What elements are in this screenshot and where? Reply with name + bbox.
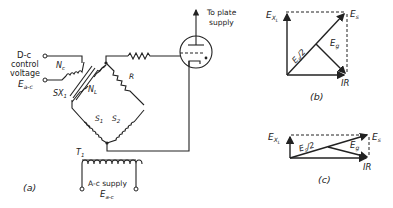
- caption-a: (a): [23, 182, 36, 193]
- c-eg-vector: [328, 147, 367, 157]
- ac-terminal-left: [80, 187, 84, 191]
- tube-gas-dot: [205, 57, 208, 60]
- phasor-diagram-b: EXL Es Es/2 Eg IR (b): [266, 9, 359, 102]
- plate-supply-label-line1: To plate: [206, 8, 237, 17]
- s1-winding-coil: [84, 122, 107, 143]
- dc-control-label-line1: D-c: [17, 50, 32, 60]
- bridge-resistor-r: [106, 63, 144, 105]
- ac-supply-symbol: Ea-c: [100, 189, 114, 200]
- b-eg-label: Eg: [330, 38, 339, 50]
- c-es-half-label: Es/2: [298, 141, 316, 155]
- nc-winding-coil: [66, 62, 84, 76]
- caption-c: (c): [318, 174, 331, 185]
- phasor-diagram-c: EXL Es Es/2 Eg IR (c): [268, 132, 381, 185]
- ac-supply-label: A-c supply: [88, 179, 127, 188]
- t1-winding-coil: [82, 160, 142, 164]
- wire-dc-bottom: [47, 76, 66, 80]
- r-label: R: [129, 72, 134, 81]
- caption-b: (b): [310, 91, 323, 102]
- nc-label: Nc: [56, 61, 65, 71]
- plate-supply-label-line2: supply: [209, 18, 234, 27]
- dc-terminal-bottom: [43, 78, 47, 82]
- b-eg-vector: [316, 44, 345, 73]
- circuit-a: D-c control voltage Ea-c Nc NL SX1 R: [10, 8, 237, 200]
- s2-label: S2: [112, 114, 121, 124]
- wire-to-grid-resistor: [106, 56, 128, 63]
- tube-cathode: [189, 61, 200, 66]
- c-es-label: Es: [372, 132, 381, 143]
- b-es-label: Es: [350, 9, 359, 20]
- wire-right-arm: [134, 110, 144, 122]
- phase-shift-bridge-diagram: D-c control voltage Ea-c Nc NL SX1 R: [0, 0, 393, 208]
- c-eg-label: Eg: [350, 140, 359, 152]
- ac-terminal-right: [134, 187, 138, 191]
- b-es-half-label: Es/2: [290, 47, 308, 65]
- dc-control-label-line3: voltage: [10, 69, 40, 78]
- t1-label: T1: [76, 148, 84, 158]
- dc-terminal-top: [43, 54, 47, 58]
- reactor-core-line-3: [76, 70, 98, 100]
- dc-control-symbol: Ea-c: [18, 79, 34, 90]
- grid-resistor: [128, 53, 180, 59]
- s1-label: S1: [95, 114, 103, 124]
- c-exl-label: EXL: [268, 132, 281, 145]
- b-ir-label: IR: [341, 78, 350, 88]
- sx1-label: SX1: [53, 89, 67, 99]
- dc-control-label-line2: control: [11, 60, 39, 69]
- s2-winding-coil: [107, 122, 134, 143]
- nl-label: NL: [88, 85, 97, 95]
- b-exl-label: EXL: [266, 10, 279, 23]
- wire-dc-top: [47, 56, 82, 63]
- c-ir-label: IR: [363, 162, 372, 172]
